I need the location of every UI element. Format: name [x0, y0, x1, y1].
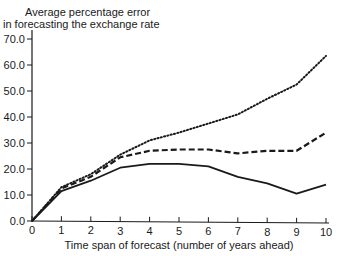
x-axis-line — [32, 221, 329, 223]
y-tick-label: 70.0 — [4, 33, 25, 45]
x-tick-label: 0 — [29, 224, 35, 236]
x-axis-label: Time span of forecast (number of years a… — [65, 239, 294, 251]
x-tick-label: 5 — [176, 225, 182, 237]
series-solid-line — [32, 164, 326, 221]
y-tick-label: 0.0 — [10, 215, 25, 227]
line-chart: Average percentage errorin forecasting t… — [0, 0, 344, 256]
series-dotted-line — [32, 56, 326, 221]
y-tick-label: 50.0 — [4, 85, 25, 97]
y-tick-label: 10.0 — [4, 189, 25, 201]
x-tick-label: 8 — [264, 226, 270, 238]
y-tick-label: 30.0 — [4, 137, 25, 149]
x-tick-label: 6 — [205, 225, 211, 237]
y-axis-label-line: in forecasting the exchange rate — [3, 18, 160, 30]
x-tick-label: 3 — [117, 225, 123, 237]
data-series — [32, 56, 326, 221]
y-tick-label: 20.0 — [4, 163, 25, 175]
x-tick-label: 4 — [147, 225, 153, 237]
y-axis-label: Average percentage errorin forecasting t… — [3, 6, 160, 30]
axes — [32, 30, 329, 223]
y-tick-label: 40.0 — [4, 111, 25, 123]
x-tick-label: 2 — [88, 224, 94, 236]
series-dashed-line — [32, 133, 326, 221]
y-axis-ticks: 0.010.020.030.040.050.060.070.0 — [4, 33, 32, 227]
x-axis-ticks: 012345678910 — [29, 216, 332, 238]
x-tick-label: 10 — [320, 226, 332, 238]
y-axis-label-line: Average percentage error — [25, 6, 150, 18]
chart-canvas: Average percentage errorin forecasting t… — [0, 0, 344, 256]
x-tick-label: 7 — [235, 225, 241, 237]
x-tick-label: 9 — [294, 226, 300, 238]
x-tick-label: 1 — [58, 224, 64, 236]
y-tick-label: 60.0 — [4, 59, 25, 71]
